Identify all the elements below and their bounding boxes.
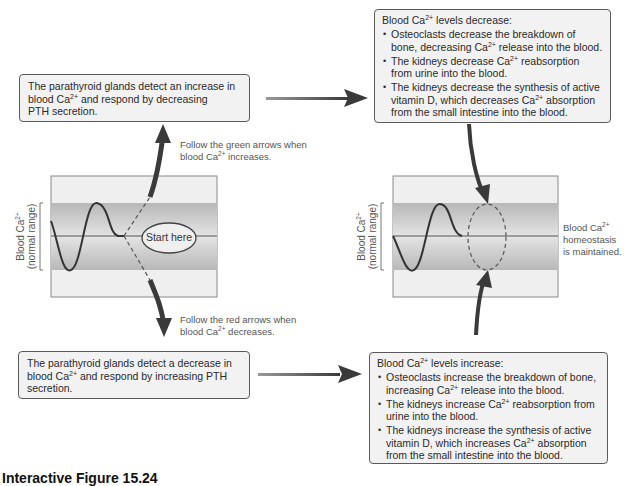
box-text: blood Ca — [28, 93, 70, 105]
item-text: release into the blood. — [458, 384, 564, 396]
list-title: Blood Ca2+ levels decrease: — [382, 14, 603, 27]
list-item: The kidneys decrease the synthesis of ac… — [382, 81, 603, 119]
box-detect-increase: The parathyroid glands detect an increas… — [19, 74, 250, 122]
superscript: 2+ — [69, 369, 77, 376]
bullet-list: Osteoclasts increase the breakdown of bo… — [377, 371, 600, 462]
list-item: Osteoclasts increase the breakdown of bo… — [377, 371, 600, 396]
note-text: Follow the red arrows when — [180, 314, 296, 326]
note-text: homeostasis — [563, 234, 622, 246]
note-text: blood Ca — [180, 326, 218, 337]
list-title: Blood Ca2+ levels increase: — [377, 357, 600, 370]
bullet-list: Osteoclasts decrease the breakdown of bo… — [382, 28, 603, 119]
note-text: is maintained. — [563, 246, 622, 258]
superscript: 2+ — [355, 212, 362, 219]
superscript: 2+ — [527, 436, 535, 443]
item-text: release into the blood. — [496, 41, 602, 53]
box-text: and respond by increasing PTH — [77, 370, 227, 382]
list-item: The kidneys increase the synthesis of ac… — [377, 424, 600, 462]
superscript: 2+ — [535, 93, 543, 100]
box-detect-decrease: The parathyroid glands detect a decrease… — [18, 351, 250, 399]
box-text: blood Ca — [27, 370, 69, 382]
note-text: blood Ca — [180, 151, 218, 162]
axis-text: Blood Ca — [356, 220, 367, 261]
list-item: The kidneys increase Ca2+ reabsorption f… — [377, 398, 600, 423]
superscript: 2+ — [488, 40, 496, 47]
superscript: 2+ — [425, 14, 433, 21]
box-text: The parathyroid glands detect an increas… — [28, 80, 235, 92]
figure-caption: Interactive Figure 15.24 — [2, 470, 158, 486]
note-text: decreases. — [225, 326, 274, 337]
y-axis-label-left: Blood Ca2+ (normal range) — [15, 194, 37, 279]
arrow-right-bottom — [258, 365, 362, 383]
item-text: The kidneys decrease Ca — [391, 55, 510, 67]
box-levels-decrease: Blood Ca2+ levels decrease: Osteoclasts … — [374, 9, 611, 123]
title-text: levels decrease: — [433, 14, 512, 26]
right-graph — [381, 176, 558, 297]
y-axis-label-right: Blood Ca2+ (normal range) — [356, 194, 378, 279]
start-here-label: Start here — [142, 231, 196, 243]
note-red-arrows: Follow the red arrows when blood Ca2+ de… — [180, 314, 296, 337]
superscript: 2+ — [14, 212, 21, 219]
superscript: 2+ — [450, 383, 458, 390]
box-text: PTH secretion. — [28, 105, 97, 117]
box-levels-increase: Blood Ca2+ levels increase: Osteoclasts … — [369, 352, 608, 464]
axis-text: (normal range) — [367, 194, 378, 279]
note-green-arrows: Follow the green arrows when blood Ca2+ … — [180, 139, 307, 162]
axis-text: Blood Ca — [15, 220, 26, 261]
box-text: The parathyroid glands detect a decrease… — [27, 357, 232, 369]
superscript: 2+ — [502, 397, 510, 404]
box-text: and respond by decreasing — [78, 93, 208, 105]
title-text: Blood Ca — [382, 14, 425, 26]
title-text: levels increase: — [428, 357, 503, 369]
note-text: increases. — [225, 151, 271, 162]
note-homeostasis: Blood Ca2+ homeostasis is maintained. — [563, 222, 622, 258]
title-text: Blood Ca — [377, 357, 420, 369]
note-text: Blood Ca — [563, 222, 602, 233]
list-item: The kidneys decrease Ca2+ reabsorption f… — [382, 55, 603, 80]
box-text: secretion. — [27, 382, 73, 394]
superscript: 2+ — [70, 92, 78, 99]
arrow-right-top — [266, 89, 368, 107]
axis-text: (normal range) — [26, 194, 37, 279]
list-item: Osteoclasts decrease the breakdown of bo… — [382, 28, 603, 53]
item-text: The kidneys increase Ca — [386, 398, 502, 410]
superscript: 2+ — [420, 357, 428, 364]
superscript: 2+ — [510, 54, 518, 61]
superscript: 2+ — [602, 221, 609, 228]
note-text: Follow the green arrows when — [180, 139, 307, 151]
